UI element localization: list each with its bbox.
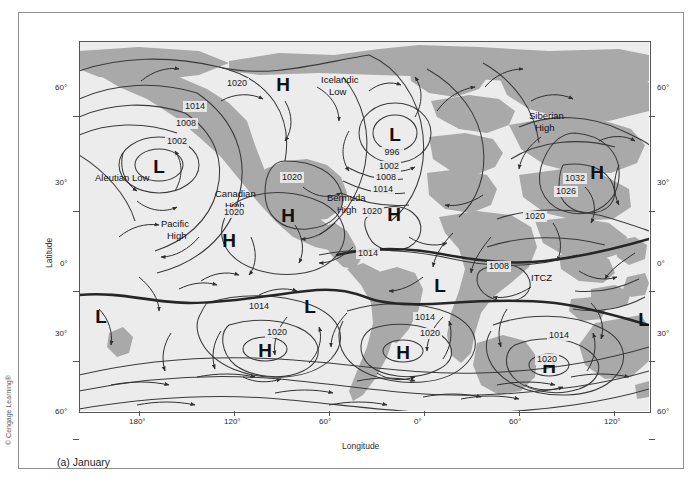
ytick-mark — [649, 116, 655, 117]
ytick-mark — [649, 291, 655, 292]
svg-text:L: L — [638, 309, 649, 330]
xtick-mark — [234, 411, 235, 416]
ytick-right-30s: 30° — [657, 329, 669, 338]
label-aleutian-low: Aleutian Low — [95, 172, 150, 183]
isobar-label-1020: 1020 — [362, 206, 382, 216]
svg-text:L: L — [389, 124, 401, 145]
isobar-label-1020: 1020 — [227, 78, 247, 88]
ytick-mark — [73, 439, 79, 440]
ytick-mark — [73, 361, 79, 362]
svg-text:H: H — [276, 74, 290, 95]
ytick-right-60n: 60° — [657, 83, 669, 92]
isobar-label-1032: 1032 — [565, 173, 585, 183]
isobar-label-1026: 1026 — [556, 186, 576, 196]
ytick-mark — [73, 211, 79, 212]
isobar-label-1014: 1014 — [549, 330, 569, 340]
figure-january-pressure-map: L L H H H H H H H H L L L L L A — [0, 0, 700, 484]
svg-text:L: L — [153, 156, 165, 177]
isobar-label-996: 996 — [384, 147, 399, 157]
svg-text:L: L — [304, 296, 316, 317]
label-icelandic-low-1: Icelandic — [321, 74, 359, 85]
isobar-label-1008: 1008 — [376, 172, 396, 182]
isobar-label-1008: 1008 — [176, 118, 196, 128]
svg-text:H: H — [258, 340, 272, 361]
xtick-60°: 60° — [509, 417, 521, 426]
world-pressure-map: L L H H H H H H H H L L L L L A — [79, 41, 649, 411]
map-plot-area: L L H H H H H H H H L L L L L A — [79, 41, 649, 411]
axis-label-latitude: Latitude — [44, 238, 54, 268]
ytick-mark — [73, 116, 79, 117]
xtick-mark — [424, 411, 425, 416]
xtick-mark — [519, 411, 520, 416]
ytick-mark — [649, 361, 655, 362]
isobar-label-1020: 1020 — [224, 207, 244, 217]
svg-text:H: H — [590, 162, 604, 183]
xtick-mark — [614, 411, 615, 416]
xtick-180°: 180° — [129, 417, 146, 426]
ytick-mark — [73, 291, 79, 292]
label-pacific-high-2: High — [167, 230, 187, 241]
isobar-label-1014: 1014 — [249, 301, 269, 311]
label-itcz: ITCZ — [531, 272, 552, 283]
ytick-left-30n: 30° — [55, 178, 67, 187]
svg-text:L: L — [95, 306, 107, 327]
ytick-left-30s: 30° — [55, 329, 67, 338]
isobar-label-1014: 1014 — [185, 101, 205, 111]
ytick-left-0: 0° — [60, 259, 68, 268]
label-siberian-high-2: High — [535, 122, 555, 133]
isobar-label-1002: 1002 — [379, 161, 399, 171]
ytick-mark — [649, 439, 655, 440]
isobar-label-1002: 1002 — [167, 136, 187, 146]
label-bermuda-high-1: Bermuda — [327, 192, 366, 203]
isobar-label-1008: 1008 — [489, 261, 509, 271]
ytick-left-60n: 60° — [55, 83, 67, 92]
isobar-label-1020: 1020 — [525, 211, 545, 221]
isobar-label-1020: 1020 — [282, 172, 302, 182]
label-siberian-high-1: Siberian — [529, 110, 564, 121]
ytick-right-60s: 60° — [657, 407, 669, 416]
label-pacific-high-1: Pacific — [161, 218, 189, 229]
isobar-label-1020: 1020 — [267, 327, 287, 337]
svg-text:L: L — [434, 275, 446, 296]
ytick-mark — [649, 211, 655, 212]
label-canadian-high-1: Canadian — [215, 188, 256, 199]
axis-label-longitude: Longitude — [342, 441, 379, 451]
svg-text:H: H — [281, 205, 295, 226]
figure-caption: (a) January — [57, 456, 110, 468]
svg-text:H: H — [387, 204, 401, 225]
svg-text:H: H — [396, 342, 410, 363]
isobar-label-1020: 1020 — [537, 354, 557, 364]
isobar-label-1020: 1020 — [420, 328, 440, 338]
isobar-label-1014: 1014 — [373, 184, 393, 194]
copyright-credit: © Cengage Learning® — [5, 375, 12, 445]
xtick-0°: 0° — [414, 417, 422, 426]
xtick-120°: 120° — [224, 417, 241, 426]
ytick-right-30n: 30° — [657, 178, 669, 187]
xtick-mark — [329, 411, 330, 416]
xtick-120°: 120° — [604, 417, 621, 426]
xtick-mark — [139, 411, 140, 416]
isobar-label-1014: 1014 — [415, 312, 435, 322]
svg-text:H: H — [222, 230, 236, 251]
figure-frame: L L H H H H H H H H L L L L L A — [18, 12, 684, 469]
label-icelandic-low-2: Low — [329, 86, 347, 97]
label-bermuda-high-2: High — [337, 204, 357, 215]
ytick-right-0: 0° — [657, 259, 665, 268]
isobar-label-1014: 1014 — [358, 248, 378, 258]
ytick-left-60s: 60° — [55, 407, 67, 416]
xtick-60°: 60° — [319, 417, 331, 426]
